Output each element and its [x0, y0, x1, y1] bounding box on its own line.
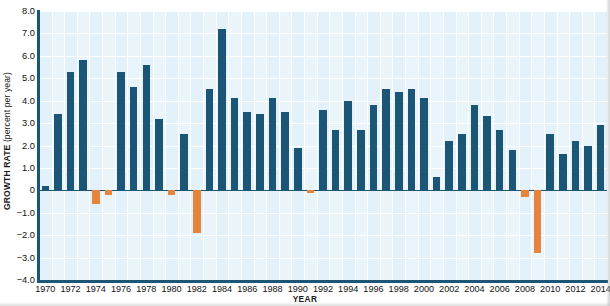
- x-tick-label: 2012: [565, 284, 585, 294]
- paper-edge-bottom: [0, 302, 610, 306]
- bar: [483, 116, 491, 190]
- bar: [117, 72, 125, 191]
- x-tick-label: 1990: [288, 284, 308, 294]
- y-axis-line: [37, 10, 40, 282]
- bar: [206, 89, 214, 190]
- y-tick-label: 7.0: [22, 28, 35, 38]
- y-tick-label: 5.0: [22, 73, 35, 83]
- y-axis-title: GROWTH RATE (percent per year): [0, 0, 14, 282]
- bar: [433, 177, 441, 190]
- bar: [534, 190, 542, 253]
- y-tick-label: 4.0: [22, 96, 35, 106]
- x-tick-label: 2002: [439, 284, 459, 294]
- bar: [395, 92, 403, 191]
- x-tick-label: 2010: [540, 284, 560, 294]
- bar: [382, 89, 390, 190]
- plot-area: [39, 11, 607, 280]
- x-tick-label: 1974: [86, 284, 106, 294]
- y-axis-tick-labels: 8.07.06.05.04.03.02.01.00−1.0−2.0−3.0−4.…: [14, 0, 37, 290]
- bar: [168, 190, 176, 194]
- bar: [155, 119, 163, 191]
- x-tick-label: 1994: [338, 284, 358, 294]
- bar: [130, 87, 138, 190]
- bar: [496, 130, 504, 191]
- bar: [281, 112, 289, 190]
- y-axis-title-main: GROWTH RATE: [2, 145, 12, 210]
- x-tick-label: 2000: [414, 284, 434, 294]
- x-tick-label: 1988: [262, 284, 282, 294]
- x-tick-label: 1986: [237, 284, 257, 294]
- bar: [509, 150, 517, 190]
- x-tick-label: 1978: [136, 284, 156, 294]
- bar: [357, 130, 365, 191]
- x-tick-label: 1970: [35, 284, 55, 294]
- x-tick-label: 1998: [389, 284, 409, 294]
- y-tick-label: −2.0: [17, 230, 35, 240]
- bar: [408, 89, 416, 190]
- x-tick-label: 2008: [515, 284, 535, 294]
- bar: [105, 190, 113, 194]
- y-tick-label: 2.0: [22, 141, 35, 151]
- bar: [143, 65, 151, 191]
- bar: [79, 60, 87, 190]
- bar: [269, 98, 277, 190]
- bar: [572, 141, 580, 190]
- y-tick-label: 8.0: [22, 6, 35, 16]
- x-tick-label: 1982: [187, 284, 207, 294]
- bar-series: [39, 11, 607, 280]
- bar: [471, 105, 479, 190]
- bar: [256, 114, 264, 190]
- x-axis-line: [37, 280, 608, 283]
- y-tick-label: −4.0: [17, 275, 35, 285]
- paper-edge-right: [606, 0, 610, 306]
- bar: [597, 125, 605, 190]
- bar: [307, 190, 315, 192]
- y-tick-label: 6.0: [22, 51, 35, 61]
- y-axis-title-units: (percent per year): [2, 72, 12, 142]
- x-tick-label: 1972: [60, 284, 80, 294]
- x-tick-label: 1996: [363, 284, 383, 294]
- chart-figure: GROWTH RATE (percent per year) 8.07.06.0…: [0, 0, 610, 306]
- bar: [193, 190, 201, 233]
- bar: [559, 154, 567, 190]
- bar: [54, 114, 62, 190]
- bar: [370, 105, 378, 190]
- bar: [458, 134, 466, 190]
- bar: [218, 29, 226, 190]
- x-tick-label: 2004: [464, 284, 484, 294]
- x-tick-label: 1984: [212, 284, 232, 294]
- bar: [294, 148, 302, 191]
- y-tick-label: −1.0: [17, 208, 35, 218]
- bar: [180, 134, 188, 190]
- bar: [445, 141, 453, 190]
- bar: [319, 110, 327, 191]
- y-tick-label: 1.0: [22, 163, 35, 173]
- bar: [344, 101, 352, 191]
- bar: [332, 130, 340, 191]
- x-tick-label: 1980: [161, 284, 181, 294]
- x-tick-label: 1992: [313, 284, 333, 294]
- bar: [521, 190, 529, 197]
- bar: [42, 186, 50, 190]
- bar: [420, 98, 428, 190]
- bar: [92, 190, 100, 203]
- x-tick-label: 1976: [111, 284, 131, 294]
- bar: [243, 112, 251, 190]
- bar: [231, 98, 239, 190]
- x-tick-label: 2006: [490, 284, 510, 294]
- y-tick-label: 0: [30, 185, 35, 195]
- y-tick-label: 3.0: [22, 118, 35, 128]
- bar: [67, 72, 75, 191]
- bar: [584, 146, 592, 191]
- bar: [546, 134, 554, 190]
- y-tick-label: −3.0: [17, 253, 35, 263]
